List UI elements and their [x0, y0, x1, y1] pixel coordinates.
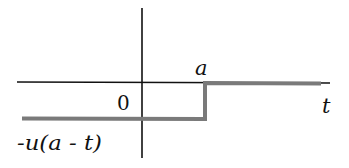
x-axis-label: t [322, 94, 331, 118]
origin-label: 0 [117, 91, 130, 115]
step-point-label: a [195, 56, 208, 80]
signal-curve [22, 83, 321, 119]
step-function-diagram: 0 a t -u(a - t) [0, 0, 349, 168]
function-label: -u(a - t) [17, 131, 102, 155]
